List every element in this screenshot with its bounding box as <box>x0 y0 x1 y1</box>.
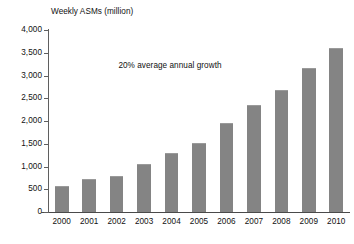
x-axis-tick-label: 2009 <box>295 217 322 227</box>
y-axis-tick-label: 1,000 <box>2 163 42 171</box>
bar <box>329 48 343 212</box>
bar <box>55 186 69 212</box>
bar <box>302 68 316 212</box>
x-axis-tick-label: 2002 <box>103 217 130 227</box>
y-axis-tick-mark <box>44 212 49 213</box>
x-axis-tick-label: 2003 <box>130 217 157 227</box>
y-axis-tick-mark <box>44 189 49 190</box>
bar <box>275 90 289 212</box>
x-axis-tick-label: 2001 <box>75 217 102 227</box>
chart-title: Weekly ASMs (million) <box>51 7 133 17</box>
x-axis-tick-label: 2000 <box>48 217 75 227</box>
y-axis-tick-mark <box>44 167 49 168</box>
y-axis-tick-label: 2,000 <box>2 117 42 125</box>
y-axis-tick-label: 500 <box>2 185 42 193</box>
y-axis-tick-label: 3,000 <box>2 72 42 80</box>
bar <box>137 164 151 212</box>
y-axis-tick-labels: 05001,0001,5002,0002,5003,0003,5004,000 <box>0 0 42 244</box>
x-axis-tick-label: 2005 <box>185 217 212 227</box>
y-axis-tick-mark <box>44 30 49 31</box>
y-axis-tick-mark <box>44 98 49 99</box>
y-axis-tick-mark <box>44 144 49 145</box>
bar <box>192 143 206 212</box>
y-axis-tick-mark <box>44 76 49 77</box>
growth-annotation: 20% average annual growth <box>0 61 347 71</box>
x-axis-tick-label: 2007 <box>240 217 267 227</box>
y-axis-tick-label: 0 <box>2 208 42 216</box>
bar-chart-figure: Weekly ASMs (million) 05001,0001,5002,00… <box>0 0 354 244</box>
y-axis-tick-label: 4,000 <box>2 26 42 34</box>
y-axis-tick-mark <box>44 121 49 122</box>
bar <box>165 153 179 212</box>
x-axis-line <box>41 212 350 213</box>
y-axis-tick-mark <box>44 53 49 54</box>
y-axis-tick-label: 3,500 <box>2 49 42 57</box>
x-axis-tick-label: 2010 <box>323 217 350 227</box>
bar <box>220 123 234 212</box>
bars-layer <box>48 30 350 212</box>
y-axis-tick-label: 1,500 <box>2 140 42 148</box>
x-axis-tick-label: 2006 <box>213 217 240 227</box>
x-axis-tick-label: 2008 <box>268 217 295 227</box>
bar <box>110 176 124 212</box>
x-axis-tick-labels: 2000200120022003200420052006200720082009… <box>48 217 350 231</box>
bar <box>82 179 96 212</box>
bar <box>247 105 261 212</box>
x-axis-tick-label: 2004 <box>158 217 185 227</box>
y-axis-tick-label: 2,500 <box>2 94 42 102</box>
